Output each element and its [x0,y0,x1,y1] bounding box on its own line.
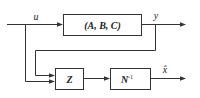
z-label: Z [65,74,72,85]
output-label: y [153,10,159,21]
input-label: u [34,11,39,22]
y-feedback-line [36,25,156,76]
block-diagram: u y x̂ (A, B, C) Z N-1 [0,0,200,98]
plant-label: (A, B, C) [84,20,121,32]
ninv-label: N-1 [120,74,133,85]
estimate-label: x̂ [162,64,168,75]
u-tap-line [26,25,55,82]
